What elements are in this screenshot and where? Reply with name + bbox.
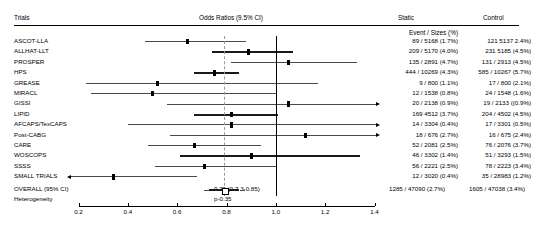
control-event-value: 585 / 10267 (5.7%)	[0, 69, 531, 75]
overall-label: OVERALL (95% CI)	[14, 186, 68, 192]
header-divider	[14, 25, 519, 26]
x-axis-tick	[276, 203, 277, 206]
control-event-value: 231 5185 (4.5%)	[0, 48, 531, 54]
overall-static-value: 1285 / 47090 (2.7%)	[389, 186, 445, 192]
x-axis-tick-label: 0.4	[121, 209, 135, 215]
control-event-value: 19 / 2133 ((0.9%)	[0, 100, 531, 106]
overall-control-value: 1605 / 47038 (3.4%)	[469, 186, 525, 192]
control-event-value: 24 / 1548 (1.6%)	[0, 90, 531, 96]
control-event-value: 35 / 28983 (1.2%)	[0, 173, 531, 179]
column-header-trials: Trials	[14, 15, 29, 21]
x-axis-tick	[128, 203, 129, 206]
control-event-value: 131 / 2913 (4.5%)	[0, 59, 531, 65]
control-event-value: 78 / 2223 (3.4%)	[0, 163, 531, 169]
control-event-value: 16 / 675 (2.4%)	[0, 132, 531, 138]
x-axis-tick	[375, 203, 376, 206]
x-axis-tick	[325, 203, 326, 206]
column-header-static: Static	[398, 15, 414, 21]
control-event-value: 51 / 3293 (1.5%)	[0, 152, 531, 158]
control-event-value: 17 / 800 (2.1%)	[0, 80, 531, 86]
pooled-reference-line	[224, 36, 225, 196]
overall-point-estimate-marker	[222, 188, 229, 195]
x-axis-tick	[79, 203, 80, 206]
overall-whisker-right	[240, 190, 245, 191]
null-reference-line	[276, 36, 277, 196]
x-axis-tick	[227, 203, 228, 206]
event-sizes-subheader: Event / Sizes (%)	[409, 30, 458, 36]
x-axis-tick-label: 1.4	[368, 209, 382, 215]
control-event-value: 121 5137 2.4%)	[0, 38, 531, 44]
control-event-value: 17 / 3301 (0.5%)	[0, 121, 531, 127]
overall-whisker-left	[204, 190, 209, 191]
x-axis-tick-label: 0.8	[220, 209, 234, 215]
heterogeneity-label: Heterogeneity	[14, 196, 53, 202]
control-event-value: 204 / 4502 (4.5%)	[0, 111, 531, 117]
x-axis-line	[79, 206, 375, 207]
forest-plot: Trials Odds Ratios (9.5% CI) Static Cont…	[0, 0, 533, 226]
x-axis-tick-label: 1.2	[318, 209, 332, 215]
x-axis-tick-label: 1.0	[269, 209, 283, 215]
column-header-control: Control	[483, 15, 504, 21]
x-axis-tick	[177, 203, 178, 206]
column-header-odds-ratios: Odds Ratios (9.5% CI)	[199, 15, 263, 21]
x-axis-tick-label: 0.2	[72, 209, 86, 215]
x-axis-tick-label: 0.6	[170, 209, 184, 215]
control-event-value: 76 / 2076 (3.7%)	[0, 142, 531, 148]
overall-p-value: p-0.35	[214, 196, 232, 202]
